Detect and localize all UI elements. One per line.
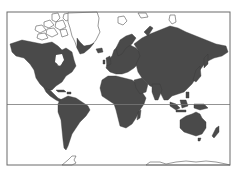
borneo [180,100,188,108]
asia [134,26,228,100]
svalbard [118,16,127,25]
ireland [103,60,105,64]
java [176,110,186,112]
tasmania [198,138,201,141]
sumatra [170,102,180,110]
antarctica [146,161,230,165]
map-canvas [0,0,238,173]
india [152,84,162,100]
north-america [10,40,76,90]
severnaya-zemlya [169,15,176,24]
iceland [96,48,103,53]
cuba [56,90,66,92]
franz-josef-land [138,13,148,18]
philippines [186,92,189,98]
hispaniola [67,92,71,94]
antarctica-peninsula [62,156,76,165]
new-zealand [212,126,219,138]
world-map: World Map [0,0,238,173]
australia [180,112,206,136]
british-isles [106,56,111,66]
arctic-islands [35,13,70,40]
